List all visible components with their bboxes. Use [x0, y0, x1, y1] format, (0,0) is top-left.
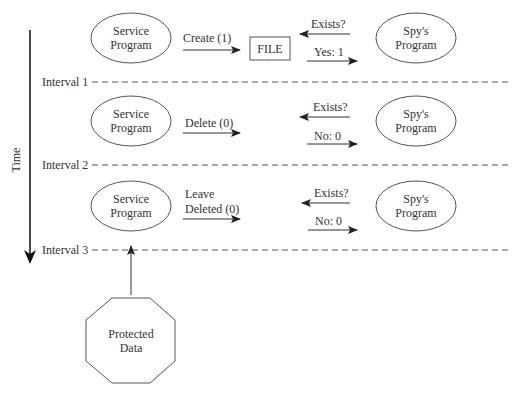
row-interval-1: Service Program Create (1) FILE Exists? …	[91, 13, 456, 63]
response-label: No: 0	[314, 129, 341, 143]
svg-text:Data: Data	[120, 341, 143, 355]
query-label: Exists?	[313, 100, 348, 114]
svg-text:Program: Program	[110, 206, 152, 220]
service-program-node: Service Program	[91, 181, 171, 231]
service-program-node: Service Program	[91, 13, 171, 63]
interval-label: Interval 2	[42, 158, 88, 172]
interval-3: Interval 3	[42, 243, 512, 257]
query-label: Exists?	[311, 17, 346, 31]
response-label: No: 0	[315, 214, 342, 228]
action-label: Leave	[185, 187, 214, 201]
svg-text:Service: Service	[113, 192, 149, 206]
file-node: FILE	[250, 37, 290, 60]
interval-label: Interval 1	[42, 75, 88, 89]
action-label-line2: Deleted (0)	[185, 202, 239, 216]
svg-text:Spy's: Spy's	[403, 107, 429, 121]
svg-text:Spy's: Spy's	[403, 24, 429, 38]
spy-program-node: Spy's Program	[376, 181, 456, 231]
action-label: Create (1)	[183, 31, 231, 45]
spy-program-node: Spy's Program	[376, 96, 456, 146]
svg-text:Program: Program	[395, 121, 437, 135]
service-program-node: Service Program	[91, 96, 171, 146]
svg-text:Program: Program	[110, 38, 152, 52]
svg-text:Program: Program	[110, 121, 152, 135]
svg-text:FILE: FILE	[257, 42, 282, 56]
svg-text:Service: Service	[113, 107, 149, 121]
spy-program-node: Spy's Program	[376, 13, 456, 63]
query-label: Exists?	[314, 186, 349, 200]
time-axis: Time	[9, 30, 36, 264]
interval-1: Interval 1	[42, 75, 512, 89]
interval-2: Interval 2	[42, 158, 512, 172]
covert-channel-diagram: Time Interval 1 Interval 2 Interval 3 Se…	[0, 0, 517, 393]
action-label: Delete (0)	[185, 116, 233, 130]
svg-text:Program: Program	[395, 206, 437, 220]
svg-text:Protected: Protected	[108, 327, 153, 341]
response-label: Yes: 1	[314, 45, 344, 59]
row-interval-3: Service Program Leave Deleted (0) Exists…	[91, 181, 456, 231]
svg-text:Spy's: Spy's	[403, 192, 429, 206]
interval-label: Interval 3	[42, 243, 88, 257]
time-axis-label: Time	[9, 148, 23, 173]
row-interval-2: Service Program Delete (0) Exists? No: 0…	[91, 96, 456, 146]
svg-text:Service: Service	[113, 24, 149, 38]
protected-data-node: Protected Data	[86, 246, 175, 383]
svg-text:Program: Program	[395, 38, 437, 52]
